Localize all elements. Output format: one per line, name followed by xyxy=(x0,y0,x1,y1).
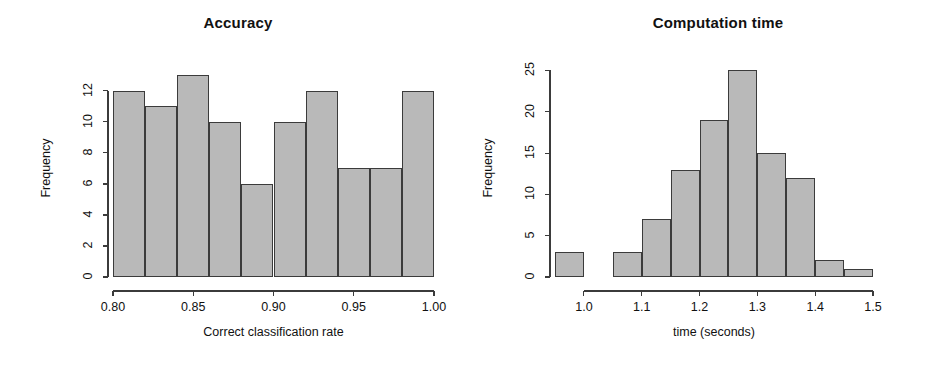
x-tick-label: 1.4 xyxy=(785,300,845,314)
x-axis-label: time (seconds) xyxy=(495,325,933,339)
plot-area-computation-time xyxy=(555,63,873,277)
y-tick-label: 5 xyxy=(523,224,537,246)
panel-accuracy: Accuracy Frequency Correct classificatio… xyxy=(0,0,476,371)
x-tick-label: 1.00 xyxy=(404,300,464,314)
page-title: Computation time xyxy=(518,14,918,31)
y-tick-label: 6 xyxy=(81,172,95,194)
x-tick-label: 1.0 xyxy=(554,300,614,314)
histogram-figure: Accuracy Frequency Correct classificatio… xyxy=(0,0,952,371)
y-tick-label: 0 xyxy=(81,265,95,287)
x-tick-label: 1.2 xyxy=(670,300,730,314)
x-tick-label: 0.80 xyxy=(83,300,143,314)
y-tick-label: 15 xyxy=(523,141,537,163)
y-tick-label: 8 xyxy=(81,141,95,163)
y-tick-label: 2 xyxy=(81,234,95,256)
page-title: Accuracy xyxy=(38,14,438,31)
x-tick-label: 0.95 xyxy=(324,300,384,314)
plot-area-accuracy xyxy=(113,63,434,277)
x-tick-label: 1.5 xyxy=(843,300,903,314)
y-tick-label: 12 xyxy=(81,79,95,101)
y-tick-label: 4 xyxy=(81,203,95,225)
x-tick-label: 1.1 xyxy=(612,300,672,314)
y-tick-label: 20 xyxy=(523,100,537,122)
panel-computation-time: Computation time Frequency time (seconds… xyxy=(476,0,952,371)
x-axis-label: Correct classification rate xyxy=(53,325,494,339)
y-tick-label: 10 xyxy=(81,110,95,132)
x-tick-label: 0.85 xyxy=(163,300,223,314)
x-tick-label: 1.3 xyxy=(727,300,787,314)
y-tick-label: 25 xyxy=(523,58,537,80)
y-tick-label: 10 xyxy=(523,182,537,204)
x-tick-label: 0.90 xyxy=(244,300,304,314)
y-tick-label: 0 xyxy=(523,265,537,287)
